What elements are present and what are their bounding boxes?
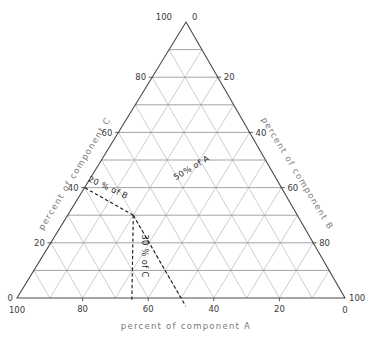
- tick-label: 20: [274, 304, 285, 314]
- tick-label: 20: [224, 72, 235, 82]
- tick-label: 40: [208, 304, 219, 314]
- construction-lines: [85, 188, 186, 307]
- corner-label-bottom-right-lower: 0: [342, 305, 347, 315]
- ternary-diagram: 806040202040608020406080 100 0 0 100 100…: [0, 0, 372, 338]
- tick-label: 60: [143, 304, 154, 314]
- tick-label: 80: [319, 238, 330, 248]
- corner-label-bottom-right-upper: 100: [349, 293, 365, 303]
- corner-label-apex-left: 100: [156, 12, 172, 22]
- tick-label: 80: [135, 72, 146, 82]
- corner-label-bottom-left-upper: 0: [8, 293, 13, 303]
- ternary-plot-svg: 806040202040608020406080 100 0 0 100 100…: [0, 0, 372, 338]
- axis-title-component-a: percent of component A: [121, 321, 251, 331]
- axis-title-component-b: percent of component B: [259, 115, 335, 231]
- annotation-label-c: 30 % of C: [140, 234, 150, 277]
- tick-label: 60: [287, 183, 298, 193]
- axis-tick-labels: 806040202040608020406080: [34, 72, 330, 314]
- tick-label: 20: [34, 238, 45, 248]
- annotation-label-a: 50% of A: [172, 153, 212, 182]
- tick-label: 80: [77, 304, 88, 314]
- corner-label-apex-right: 0: [192, 12, 197, 22]
- construction-line-c: [132, 215, 134, 302]
- corner-label-bottom-left-lower: 100: [9, 305, 25, 315]
